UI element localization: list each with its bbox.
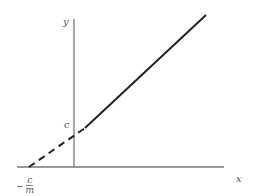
x-intercept-label: − c m <box>16 176 34 195</box>
x-axis-label: x <box>236 174 242 184</box>
y-axis-label: y <box>63 17 69 27</box>
solid-line-segment <box>85 15 206 128</box>
fraction-denominator: m <box>26 186 35 195</box>
fraction: c m <box>26 176 35 195</box>
dashed-line-segment <box>29 128 85 167</box>
line-graph <box>0 0 257 196</box>
minus-sign: − <box>16 181 24 191</box>
y-intercept-label: c <box>64 120 70 130</box>
